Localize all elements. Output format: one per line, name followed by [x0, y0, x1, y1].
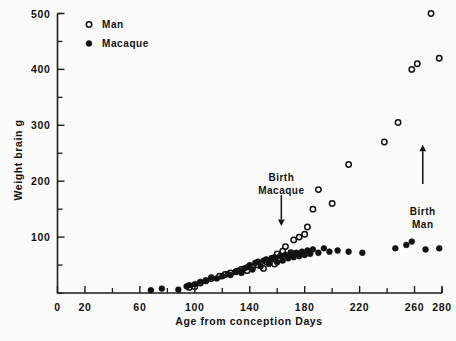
point-macaque [159, 286, 165, 292]
point-macaque [321, 245, 327, 251]
point-man [283, 244, 288, 249]
point-macaque [403, 242, 409, 248]
point-man [296, 234, 301, 239]
point-man [409, 67, 414, 72]
legend-label-macaque: Macaque [102, 38, 149, 49]
x-tick-label-20: 20 [78, 301, 91, 313]
point-macaque [203, 278, 209, 284]
annotation-birth-macaque: BirthMacaque [258, 172, 304, 226]
birth-macaque-line1: Birth [268, 172, 294, 183]
annotation-birth-man: BirthMan [410, 145, 436, 230]
point-macaque [359, 250, 365, 256]
point-macaque [266, 261, 272, 267]
point-macaque [392, 245, 398, 251]
y-tick-label-300: 300 [31, 119, 51, 131]
point-macaque [197, 279, 203, 285]
point-man [437, 56, 442, 61]
axis-lines [58, 14, 443, 294]
x-tick-label-180: 180 [295, 301, 315, 313]
point-man [310, 206, 315, 211]
x-tick-label-280: 280 [432, 301, 452, 313]
legend-marker-macaque [86, 41, 92, 47]
point-macaque [423, 246, 429, 252]
x-tick-label-60: 60 [133, 301, 146, 313]
birth-man-arrow-head [419, 145, 426, 152]
point-macaque [409, 239, 415, 245]
point-man [305, 224, 310, 229]
point-macaque [274, 259, 280, 265]
point-macaque [258, 263, 264, 269]
point-macaque [148, 287, 154, 293]
point-man [291, 237, 296, 242]
point-man [395, 120, 400, 125]
point-macaque [326, 249, 332, 255]
axes-group [58, 14, 443, 294]
point-macaque [280, 258, 286, 264]
data-points-group [148, 11, 442, 293]
birth-macaque-line2: Macaque [258, 185, 304, 196]
point-man [415, 61, 420, 66]
y-tick-label-400: 400 [31, 63, 51, 75]
birth-man-line2: Man [412, 219, 434, 230]
point-macaque [208, 274, 214, 280]
point-macaque [219, 273, 225, 279]
point-macaque [228, 272, 234, 278]
point-macaque [186, 282, 192, 288]
x-tick-label-260: 260 [405, 301, 425, 313]
point-macaque [310, 246, 316, 252]
point-macaque [250, 267, 256, 273]
plot-canvas: 02060100140180220260280100200300400500 B… [0, 0, 456, 341]
y-tick-label-100: 100 [31, 231, 51, 243]
point-man [316, 187, 321, 192]
point-macaque [335, 248, 341, 254]
x-tick-label-220: 220 [350, 301, 370, 313]
point-macaque [214, 276, 220, 282]
series-macaque [148, 239, 442, 293]
x-tick-label-100: 100 [185, 301, 205, 313]
point-man [329, 201, 334, 206]
annotations-group: BirthMacaqueBirthMan [258, 145, 436, 230]
point-macaque [175, 287, 181, 293]
x-tick-label-0: 0 [54, 301, 61, 313]
birth-macaque-arrow-head [278, 219, 285, 226]
point-macaque [192, 281, 198, 287]
legend-label-man: Man [102, 19, 124, 30]
point-macaque [316, 250, 322, 256]
point-macaque [436, 245, 442, 251]
brain-weight-scatter-figure: 02060100140180220260280100200300400500 B… [0, 0, 456, 341]
point-man [302, 232, 307, 237]
legend-group: ManMacaque [86, 19, 149, 49]
y-tick-label-200: 200 [31, 175, 51, 187]
x-tick-label-140: 140 [240, 301, 260, 313]
x-axis-title: Age from conception Days [175, 315, 322, 327]
legend-marker-man [86, 22, 91, 27]
point-man [346, 162, 351, 167]
y-tick-label-500: 500 [31, 8, 51, 20]
point-macaque [346, 249, 352, 255]
point-man [382, 139, 387, 144]
y-axis-title: Weight brain g [12, 119, 24, 200]
birth-man-line1: Birth [410, 206, 436, 217]
point-man [428, 11, 433, 16]
